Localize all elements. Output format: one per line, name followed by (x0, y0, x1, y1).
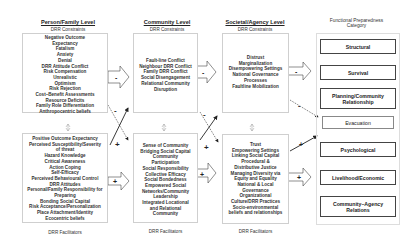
block-arrow-societal-to-category-minus (288, 62, 311, 80)
svg-text:-: - (203, 110, 206, 119)
category-livelihood-economic: Livelihood/Economic (320, 170, 396, 185)
block-arrow-community-to-societal-plus (196, 163, 216, 183)
category-evacuation: Evacuation (322, 116, 394, 129)
svg-text:+: + (115, 140, 120, 149)
community-facilitators-label: DRR Facilitators (133, 229, 198, 234)
community-constraints-label: DRR Constraints (130, 27, 204, 32)
block-arrow-community-to-societal-minus (197, 61, 216, 83)
block-arrow-person-to-community-minus (108, 66, 129, 88)
category-community-agency-relations: Community–Agency Relations (320, 196, 396, 217)
societal-constraints-label: DRR Constraints (214, 27, 296, 32)
svg-text:+: + (297, 174, 301, 181)
svg-text:-: - (298, 102, 301, 109)
societal-constraints-list: DistrustMarginalizationDisempowering Set… (222, 55, 289, 89)
category-psychological: Psychological (320, 142, 396, 157)
svg-text:+: + (204, 143, 209, 152)
svg-text:+: + (113, 178, 117, 185)
person-family-title: Person/Family Level (0, 19, 136, 25)
community-facilitators-list: Sense of CommunityBridging Social Capita… (133, 143, 198, 217)
person-family-facilitators-label: DRR Facilitators (22, 230, 108, 235)
societal-facilitators-list: TrustEmpowering SettingsLinking Social C… (222, 142, 289, 216)
svg-text:-: - (114, 106, 117, 115)
societal-facilitators-label: DRR Facilitators (222, 229, 289, 234)
category-planning-community-relationship: Planning/Community Relationship (320, 88, 396, 109)
person-family-constraints-list: Negative OutcomeExpectancyFatalismAnxiet… (22, 35, 108, 115)
person-family-constraints-label: DRR Constraints (0, 27, 136, 32)
category-structural: Structural (320, 39, 396, 54)
person-family-facilitators-list: Positive Outcome ExpectancyPerceived Sus… (22, 136, 108, 222)
block-arrow-person-to-community-plus (108, 172, 129, 190)
categories-title: Functional Preparedness Category (310, 18, 403, 28)
societal-title: Societal/Agency Level (214, 19, 296, 25)
svg-text:+: + (299, 141, 303, 148)
svg-text:+: + (200, 171, 204, 178)
community-title: Community Level (130, 19, 204, 25)
category-survival: Survival (320, 65, 396, 80)
community-constraints-list: Fault-line ConflictNeighbour DRR Conflic… (133, 58, 198, 92)
